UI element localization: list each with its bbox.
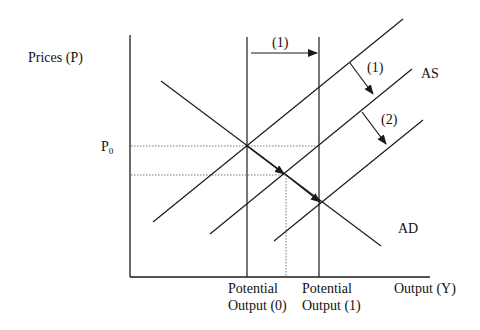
potential-output-0-label-line2: Output (0) [228, 298, 287, 314]
potential-output-1-label-line1: Potential [302, 281, 352, 296]
p0-label: P0 [101, 139, 114, 156]
as-shift-2-label: (2) [381, 112, 398, 128]
potential-shift-label: (1) [272, 35, 289, 51]
potential-output-1-label-line2: Output (1) [302, 298, 361, 314]
axes [130, 35, 430, 277]
as-ad-diagram: Prices (P) P0 (1) (1) (2) AS AD Potentia… [0, 0, 480, 330]
as-shift-1-label: (1) [367, 60, 384, 76]
output-axis-label: Output (Y) [394, 281, 456, 297]
ad-arrow-1 [247, 146, 284, 174]
potential-output-0-label-line1: Potential [228, 281, 278, 296]
y-axis-label: Prices (P) [28, 50, 83, 66]
ad-label: AD [398, 221, 418, 236]
as-label: AS [421, 66, 439, 81]
ad-arrow-2 [286, 175, 320, 202]
